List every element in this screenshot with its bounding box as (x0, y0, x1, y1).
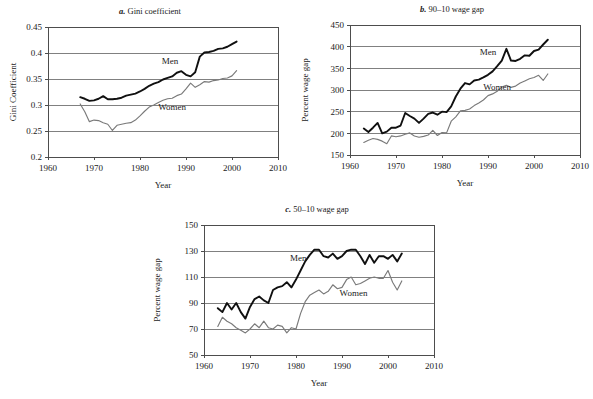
x-tick-label: 1990 (479, 161, 498, 171)
x-axis-title: Year (155, 180, 172, 190)
y-tick-label: 0.45 (26, 22, 42, 32)
x-tick-label: 1970 (85, 163, 104, 173)
y-tick-label: 150 (331, 150, 345, 160)
x-tick-label: 1970 (241, 361, 260, 371)
series-line-men (80, 42, 236, 101)
x-tick-label: 2010 (571, 161, 590, 171)
series-line-men (364, 40, 548, 134)
y-tick-label: 200 (331, 129, 345, 139)
panel-title: b. 90–10 wage gap (420, 4, 484, 14)
x-tick-label: 1980 (433, 161, 452, 171)
x-tick-label: 2000 (525, 161, 544, 171)
x-tick-label: 1970 (387, 161, 406, 171)
x-axis: 196019701980199020002010 (341, 155, 590, 171)
y-tick-label: 300 (331, 85, 345, 95)
x-axis-title: Year (457, 178, 474, 188)
series-label-men: Men (480, 47, 497, 57)
x-tick-label: 2000 (379, 361, 398, 371)
series-line-women (218, 271, 402, 333)
y-axis: 0.20.250.30.350.40.45 (26, 22, 48, 162)
x-tick-label: 1960 (195, 361, 214, 371)
y-axis-title: Percent wage gap (300, 58, 310, 122)
x-axis: 196019701980199020002010 (39, 157, 288, 173)
panel-title: c. 50–10 wage gap (285, 204, 349, 214)
chart-a: a. Gini coefficient0.20.250.30.350.40.45… (0, 0, 300, 200)
axis-frame (48, 27, 278, 157)
y-tick-label: 400 (331, 42, 345, 52)
series-label-men: Men (162, 56, 179, 66)
y-tick-label: 110 (185, 272, 199, 282)
y-axis-title: Gini Coefficient (8, 62, 18, 121)
y-tick-label: 250 (331, 107, 345, 117)
series-label-women: Women (483, 82, 511, 92)
panel-gini-coefficient: a. Gini coefficient0.20.250.30.350.40.45… (0, 0, 300, 200)
y-tick-label: 70 (189, 324, 199, 334)
series-label-women: Women (158, 102, 186, 112)
y-tick-label: 450 (331, 20, 345, 30)
x-tick-label: 1980 (131, 163, 150, 173)
x-tick-label: 1980 (287, 361, 306, 371)
y-tick-label: 0.2 (31, 152, 42, 162)
panel-90-10-wage-gap: b. 90–10 wage gap15020025030035040045019… (292, 0, 593, 200)
y-tick-label: 0.3 (31, 100, 43, 110)
series-line-men (218, 250, 402, 319)
y-tick-label: 150 (185, 220, 199, 230)
x-tick-label: 1960 (341, 161, 360, 171)
y-axis: 150200250300350400450 (331, 20, 351, 160)
series-line-women (80, 71, 236, 131)
x-tick-label: 1990 (333, 361, 352, 371)
y-tick-label: 0.35 (26, 74, 42, 84)
y-tick-label: 130 (185, 246, 199, 256)
x-axis-title: Year (311, 378, 328, 388)
panel-title: a. Gini coefficient (119, 6, 182, 16)
gridlines (204, 225, 434, 329)
x-axis: 196019701980199020002010 (195, 355, 444, 371)
x-tick-label: 1990 (177, 163, 196, 173)
y-axis-title: Percent wage gap (152, 258, 162, 322)
x-tick-label: 2010 (269, 163, 288, 173)
y-tick-label: 350 (331, 64, 345, 74)
y-tick-label: 90 (189, 298, 199, 308)
chart-b: b. 90–10 wage gap15020025030035040045019… (292, 0, 593, 200)
y-tick-label: 50 (189, 350, 199, 360)
x-tick-label: 1960 (39, 163, 58, 173)
panel-50-10-wage-gap: c. 50–10 wage gap50709011013015019601970… (142, 196, 462, 399)
series-label-men: Men (290, 253, 307, 263)
series-label-women: Women (340, 288, 368, 298)
y-axis: 507090110130150 (185, 220, 205, 360)
y-tick-label: 0.4 (31, 48, 43, 58)
x-tick-label: 2010 (425, 361, 444, 371)
y-tick-label: 0.25 (26, 126, 42, 136)
chart-c: c. 50–10 wage gap50709011013015019601970… (142, 196, 462, 399)
x-tick-label: 2000 (223, 163, 242, 173)
